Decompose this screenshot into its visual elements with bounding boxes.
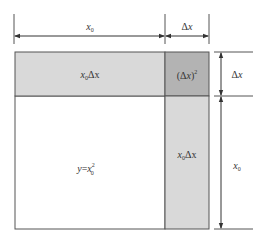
- label-dx-top: Δx: [182, 21, 193, 32]
- label-corner: (Δx)2: [177, 69, 198, 82]
- label-main-sub: 0: [91, 170, 94, 176]
- label-x0-top-sub: 0: [91, 27, 94, 33]
- label-dx-top-var: x: [187, 21, 193, 32]
- label-top-strip: x0Δx: [80, 69, 100, 81]
- label-right-strip-suffix: Δx: [185, 149, 196, 160]
- label-corner-open: (Δ: [177, 70, 187, 82]
- label-main-sup: 2: [92, 162, 95, 168]
- label-x0-right: x0: [232, 160, 240, 172]
- label-corner-sup: 2: [194, 69, 197, 75]
- label-dx-right: Δx: [232, 69, 243, 80]
- right-strip-region: [165, 96, 209, 229]
- label-x0-right-sub: 0: [238, 166, 241, 172]
- label-x0-top: x0: [85, 21, 93, 33]
- label-right-strip: x0Δx: [177, 149, 197, 161]
- label-dx-right-var: x: [237, 69, 243, 80]
- label-top-strip-suffix: Δx: [88, 69, 99, 80]
- differential-diagram: x0 Δx Δx x0 x0Δx (Δx)2 x0Δx y=x20: [0, 0, 268, 245]
